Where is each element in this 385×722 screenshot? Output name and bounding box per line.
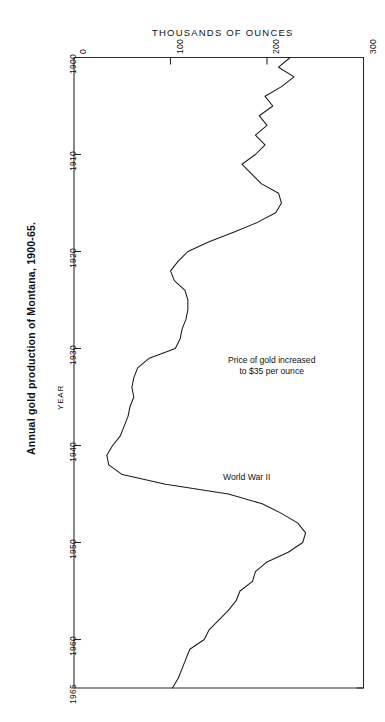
y-tick-label: 1960	[68, 635, 78, 655]
y-tick-label: 1930	[68, 344, 78, 364]
y-tick-label: 1900	[68, 53, 78, 73]
x-tick-label: 300	[368, 38, 378, 53]
y-tick-label: 1910	[68, 150, 78, 170]
annotation-world-war-ii: World War II	[223, 472, 270, 483]
frame-rect	[74, 58, 364, 689]
chart-figure: Annual gold production of Montana, 1900-…	[0, 0, 385, 722]
x-tick-label: 100	[175, 38, 185, 53]
y-axis-title: YEAR	[57, 385, 65, 410]
plot-area	[0, 0, 385, 722]
axis-frame	[74, 58, 364, 689]
y-tick-label: 1965	[68, 684, 78, 704]
x-axis-title: THOUSANDS OF OUNCES	[152, 28, 294, 38]
annotation-gold-price-line1: Price of gold increased	[228, 355, 315, 366]
annotation-gold-price-line2: to $35 per ounce	[228, 366, 315, 377]
y-tick-label: 1920	[68, 247, 78, 267]
tick-marks	[74, 58, 364, 689]
page-title: Annual gold production of Montana, 1900-…	[26, 222, 37, 455]
annotation-gold-price: Price of gold increased to $35 per ounce	[228, 355, 315, 376]
x-tick-label: 0	[78, 48, 88, 53]
y-tick-label: 1940	[68, 441, 78, 461]
x-tick-label: 200	[271, 38, 281, 53]
y-tick-label: 1950	[68, 538, 78, 558]
